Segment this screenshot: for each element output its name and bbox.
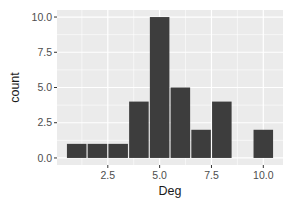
x-tick-label: 7.5 bbox=[204, 169, 219, 181]
x-axis-title: Deg bbox=[159, 184, 182, 198]
histogram-bar bbox=[67, 144, 87, 158]
histogram-bar bbox=[88, 144, 108, 158]
y-axis-title: count bbox=[8, 72, 22, 103]
histogram-chart: 2.55.07.510.0 0.02.55.07.510.0 Deg count bbox=[0, 0, 302, 207]
histogram-bar bbox=[191, 130, 211, 158]
histogram-bar bbox=[171, 88, 191, 158]
x-tick-label: 10.0 bbox=[253, 169, 274, 181]
x-tick-label: 2.5 bbox=[100, 169, 115, 181]
histogram-bar bbox=[254, 130, 274, 158]
histogram-bar bbox=[150, 17, 170, 158]
y-tick-label: 0.0 bbox=[37, 152, 52, 164]
y-tick-label: 2.5 bbox=[37, 116, 52, 128]
x-tick-label: 5.0 bbox=[152, 169, 167, 181]
y-axis: 0.02.55.07.510.0 bbox=[32, 11, 57, 164]
y-tick-label: 10.0 bbox=[32, 11, 53, 23]
y-tick-label: 5.0 bbox=[37, 81, 52, 93]
x-axis: 2.55.07.510.0 bbox=[100, 165, 273, 181]
histogram-bar bbox=[108, 144, 128, 158]
histogram-bar bbox=[212, 102, 232, 158]
histogram-bar bbox=[129, 102, 149, 158]
y-tick-label: 7.5 bbox=[37, 46, 52, 58]
